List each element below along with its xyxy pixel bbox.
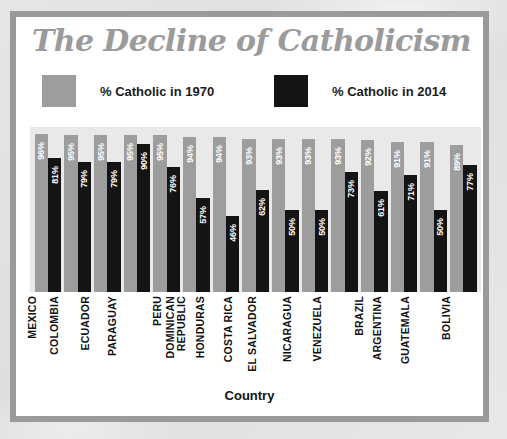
bar-group: 93%50% bbox=[302, 127, 329, 292]
bar-value-label: 50% bbox=[317, 218, 327, 235]
bar: 94% bbox=[183, 137, 196, 292]
x-tick-cell: PARAGUAY bbox=[124, 294, 151, 390]
bar: 62% bbox=[256, 190, 269, 292]
legend-label-0: % Catholic in 1970 bbox=[100, 84, 214, 99]
bar-value-label: 93% bbox=[303, 147, 313, 164]
bar: 61% bbox=[374, 191, 387, 292]
bar-value-label: 93% bbox=[244, 147, 254, 164]
bar-value-label: 81% bbox=[50, 167, 60, 184]
bar: 96% bbox=[35, 134, 48, 292]
bar-value-label: 71% bbox=[406, 183, 416, 200]
bar-value-label: 57% bbox=[198, 206, 208, 223]
bar: 95% bbox=[124, 135, 137, 292]
bar: 95% bbox=[153, 135, 166, 292]
bar: 92% bbox=[361, 140, 374, 292]
bar-value-label: 94% bbox=[185, 145, 195, 162]
bar: 57% bbox=[196, 198, 209, 292]
bar: 79% bbox=[78, 162, 91, 292]
bar-group: 95%76% bbox=[153, 127, 180, 292]
bar: 93% bbox=[242, 139, 255, 292]
bar: 90% bbox=[137, 144, 150, 293]
chart-legend: % Catholic in 1970% Catholic in 2014 bbox=[16, 70, 483, 112]
x-tick-label: HONDURAS bbox=[195, 296, 206, 358]
bar: 91% bbox=[391, 142, 404, 292]
x-tick-label: VENEZUELA bbox=[312, 296, 323, 361]
bar: 93% bbox=[302, 139, 315, 292]
bar-value-label: 91% bbox=[422, 150, 432, 167]
bar-group: 92%61% bbox=[361, 127, 388, 292]
legend-item-0: % Catholic in 1970 bbox=[42, 70, 214, 112]
bar-group: 93%73% bbox=[331, 127, 358, 292]
bar-value-label: 91% bbox=[392, 150, 402, 167]
bar-value-label: 95% bbox=[96, 144, 106, 161]
bar: 46% bbox=[226, 216, 239, 292]
bar-value-label: 94% bbox=[214, 145, 224, 162]
bar: 79% bbox=[107, 162, 120, 292]
bar-value-label: 90% bbox=[139, 152, 149, 169]
bar-series-container: 96%81%95%79%95%79%95%90%95%76%94%57%94%4… bbox=[30, 127, 481, 292]
legend-swatch-0 bbox=[42, 75, 76, 107]
bar-value-label: 61% bbox=[376, 200, 386, 217]
bar-value-label: 95% bbox=[125, 144, 135, 161]
x-tick-label: ECUADOR bbox=[80, 296, 91, 351]
bar: 89% bbox=[450, 145, 463, 292]
bar: 50% bbox=[285, 210, 298, 293]
bar-group: 94%46% bbox=[213, 127, 240, 292]
bar: 95% bbox=[94, 135, 107, 292]
bar-value-label: 50% bbox=[435, 218, 445, 235]
bar-value-label: 79% bbox=[79, 170, 89, 187]
bar-value-label: 73% bbox=[346, 180, 356, 197]
chart-title: The Decline of Catholicism bbox=[32, 25, 472, 57]
x-tick-label: COLOMBIA bbox=[48, 296, 59, 355]
bar: 50% bbox=[315, 210, 328, 293]
bar-value-label: 89% bbox=[452, 153, 462, 170]
bar-group: 93%50% bbox=[272, 127, 299, 292]
x-tick-label: BRAZIL bbox=[354, 296, 365, 336]
bar-group: 95%79% bbox=[64, 127, 91, 292]
legend-label-1: % Catholic in 2014 bbox=[332, 84, 446, 99]
bar-value-label: 95% bbox=[155, 144, 165, 161]
bar: 50% bbox=[434, 210, 447, 293]
x-axis-title: Country bbox=[16, 388, 483, 403]
bar-value-label: 62% bbox=[257, 198, 267, 215]
bar: 94% bbox=[213, 137, 226, 292]
bar: 77% bbox=[463, 165, 476, 292]
chart-card-inner: The Decline of Catholicism % Catholic in… bbox=[16, 17, 483, 416]
x-tick-label: ARGENTINA bbox=[372, 296, 383, 360]
x-tick-label: NICARAGUA bbox=[282, 296, 293, 362]
x-tick-label: PERU bbox=[152, 296, 163, 326]
bar-group: 96%81% bbox=[35, 127, 62, 292]
bar-group: 89%77% bbox=[450, 127, 477, 292]
bar-value-label: 92% bbox=[363, 148, 373, 165]
x-tick-label: COSTA RICA bbox=[222, 296, 233, 362]
bar-group: 91%71% bbox=[391, 127, 418, 292]
bar-value-label: 50% bbox=[287, 218, 297, 235]
x-tick-label: EL SALVADOR bbox=[247, 296, 258, 372]
legend-item-1: % Catholic in 2014 bbox=[274, 70, 446, 112]
bar-value-label: 79% bbox=[109, 170, 119, 187]
bar: 93% bbox=[331, 139, 344, 292]
bar: 91% bbox=[420, 142, 433, 292]
bar-value-label: 95% bbox=[66, 144, 76, 161]
bar: 71% bbox=[404, 175, 417, 292]
bar-group: 91%50% bbox=[420, 127, 447, 292]
x-tick-label: BOLIVIA bbox=[441, 296, 452, 340]
x-tick-cell: BOLIVIA bbox=[450, 294, 477, 390]
plot-area: 96%81%95%79%95%79%95%90%95%76%94%57%94%4… bbox=[30, 127, 481, 292]
bar: 81% bbox=[48, 158, 61, 292]
x-tick-label: GUATEMALA bbox=[400, 296, 411, 364]
x-tick-label: DOMINICANREPUBLIC bbox=[165, 296, 188, 358]
bar-value-label: 96% bbox=[36, 142, 46, 159]
chart-card: The Decline of Catholicism % Catholic in… bbox=[10, 11, 489, 422]
x-tick-label: PARAGUAY bbox=[107, 296, 118, 356]
bar-value-label: 46% bbox=[228, 224, 238, 241]
bar-value-label: 77% bbox=[465, 173, 475, 190]
bar-group: 93%62% bbox=[242, 127, 269, 292]
bar-value-label: 93% bbox=[333, 147, 343, 164]
bar-value-label: 76% bbox=[168, 175, 178, 192]
bar-group: 95%79% bbox=[94, 127, 121, 292]
bar: 93% bbox=[272, 139, 285, 292]
bar-value-label: 93% bbox=[274, 147, 284, 164]
legend-swatch-1 bbox=[274, 75, 308, 107]
x-tick-label: MEXICO bbox=[27, 296, 38, 339]
